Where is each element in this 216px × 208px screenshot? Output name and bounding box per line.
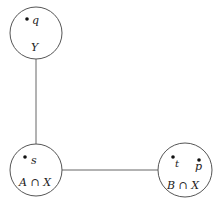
node-A-intersect-X: s A ∩ X (10, 144, 62, 196)
node-AX-label: A ∩ X (18, 176, 52, 189)
point-q-label: q (32, 14, 39, 27)
node-Y: q Y (10, 7, 62, 59)
point-s-label: s (31, 154, 37, 167)
node-BX-label: B ∩ X (166, 179, 200, 192)
diagram-canvas: q Y s A ∩ X t p B ∩ X (0, 0, 216, 208)
node-B-intersect-X: t p B ∩ X (158, 143, 212, 197)
node-Y-label: Y (31, 41, 40, 54)
point-s-dot (23, 155, 27, 159)
point-p-label: p (195, 160, 202, 173)
point-t-label: t (175, 158, 180, 169)
point-q-dot (25, 17, 29, 21)
